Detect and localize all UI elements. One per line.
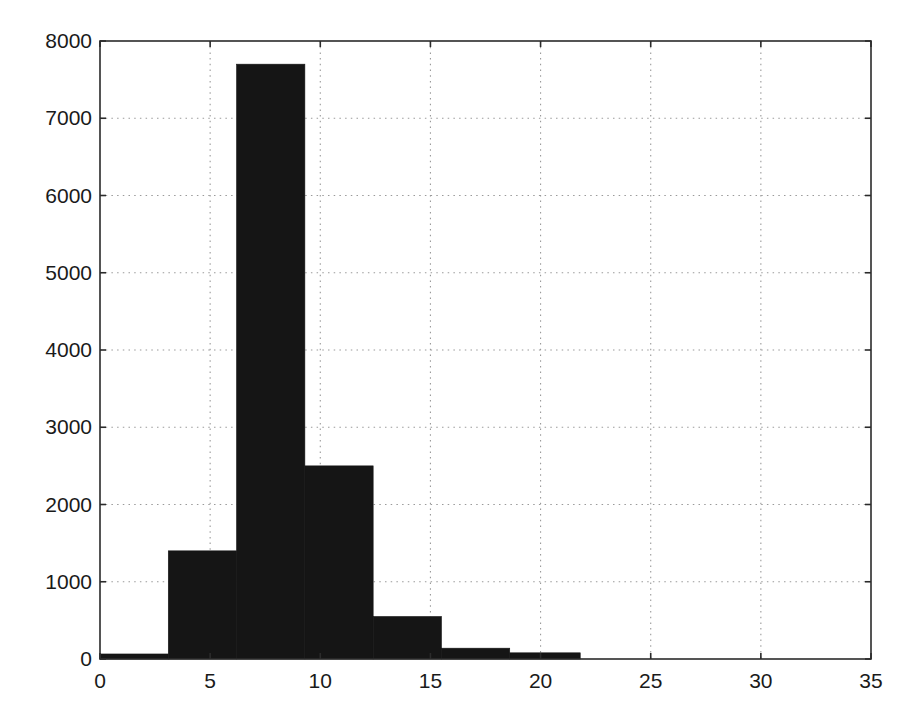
histogram-chart: 05101520253035 0100020003000400050006000…	[0, 0, 921, 725]
x-tick-label: 35	[859, 669, 882, 692]
y-tick-label: 3000	[45, 415, 92, 438]
x-tick-label: 30	[749, 669, 772, 692]
histogram-bars	[100, 64, 580, 659]
histogram-bar	[168, 551, 236, 659]
x-tick-label: 20	[529, 669, 552, 692]
y-tick-label: 4000	[45, 338, 92, 361]
histogram-bar	[373, 617, 441, 659]
y-tick-label: 5000	[45, 261, 92, 284]
x-tick-label: 5	[204, 669, 216, 692]
x-axis-tick-labels: 05101520253035	[94, 669, 883, 692]
histogram-bar	[441, 648, 509, 659]
y-tick-label: 1000	[45, 570, 92, 593]
x-tick-label: 15	[419, 669, 442, 692]
chart-canvas: 05101520253035 0100020003000400050006000…	[0, 0, 921, 725]
x-tick-label: 0	[94, 669, 106, 692]
histogram-bar	[510, 653, 580, 659]
histogram-bar	[237, 64, 305, 659]
y-axis-tick-labels: 010002000300040005000600070008000	[45, 29, 92, 670]
y-tick-label: 7000	[45, 106, 92, 129]
x-tick-label: 10	[309, 669, 332, 692]
x-tick-label: 25	[639, 669, 662, 692]
y-tick-label: 0	[80, 647, 92, 670]
y-tick-label: 6000	[45, 184, 92, 207]
y-tick-label: 2000	[45, 493, 92, 516]
y-tick-label: 8000	[45, 29, 92, 52]
histogram-bar	[305, 466, 373, 659]
